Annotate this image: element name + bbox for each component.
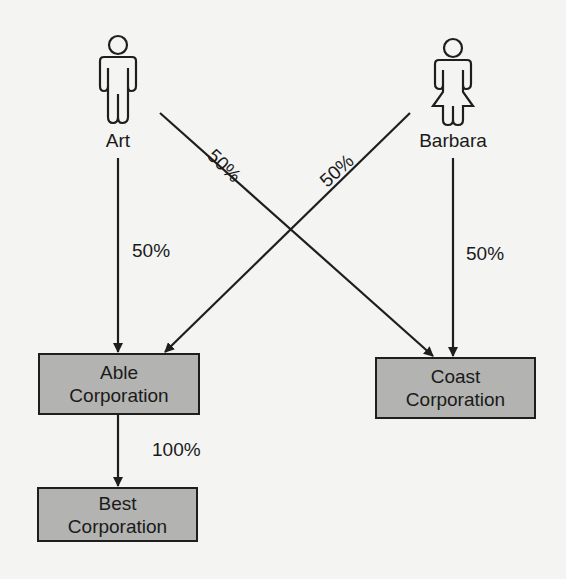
entity-able-corporation: Able Corporation [38,353,200,415]
entity-coast-corporation: Coast Corporation [375,357,536,419]
entity-best-corporation: Best Corporation [37,487,198,542]
entity-name-line2: Corporation [68,515,167,538]
person-label-art: Art [106,130,130,152]
person-label-barbara: Barbara [419,130,487,152]
edge-label-barbara-coast: 50% [466,243,504,265]
edge-art-coast [160,113,433,356]
ownership-diagram: Art Barbara Able Corporation Coast Corpo… [0,0,566,579]
female-person-icon [433,39,473,125]
edge-label-art-able: 50% [132,240,170,262]
entity-name-line1: Coast [431,365,481,388]
entity-name-line1: Best [98,492,136,515]
entity-name-line2: Corporation [69,384,168,407]
entity-name-line1: Able [100,361,138,384]
male-person-icon [100,36,136,123]
edge-label-able-best: 100% [152,439,201,461]
entity-name-line2: Corporation [406,388,505,411]
